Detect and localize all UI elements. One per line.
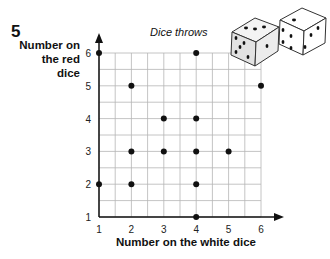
svg-text:2: 2 xyxy=(129,224,135,235)
svg-text:1: 1 xyxy=(96,224,102,235)
svg-text:5: 5 xyxy=(226,224,232,235)
data-point xyxy=(193,148,199,154)
data-point xyxy=(96,181,102,187)
data-point xyxy=(193,181,199,187)
data-point xyxy=(226,148,232,154)
svg-text:3: 3 xyxy=(85,146,91,157)
data-point xyxy=(193,116,199,122)
svg-text:4: 4 xyxy=(193,224,199,235)
tick-labels: 123456123456 xyxy=(85,48,264,235)
svg-text:5: 5 xyxy=(85,81,91,92)
data-point xyxy=(161,148,167,154)
svg-text:6: 6 xyxy=(85,48,91,59)
svg-text:4: 4 xyxy=(85,114,91,125)
dice-illustration-icon xyxy=(231,8,326,66)
svg-text:3: 3 xyxy=(161,224,167,235)
data-point xyxy=(258,83,264,89)
red-dice-icon xyxy=(231,18,279,66)
data-point xyxy=(128,83,134,89)
data-point xyxy=(128,148,134,154)
grid-lines xyxy=(99,53,261,217)
svg-text:1: 1 xyxy=(85,212,91,223)
svg-text:2: 2 xyxy=(85,179,91,190)
data-point xyxy=(96,50,102,56)
white-dice-icon xyxy=(279,8,326,55)
svg-text:6: 6 xyxy=(258,224,264,235)
data-point xyxy=(128,181,134,187)
data-point xyxy=(193,214,199,220)
data-point xyxy=(193,50,199,56)
scatter-plot: 123456123456 xyxy=(0,0,330,259)
data-point xyxy=(161,116,167,122)
